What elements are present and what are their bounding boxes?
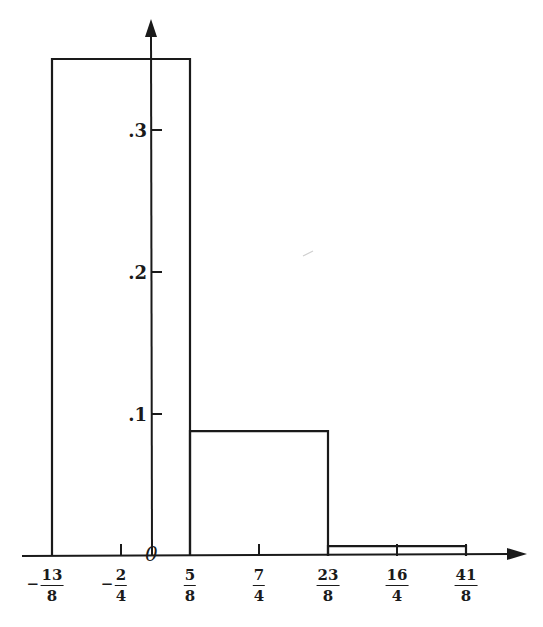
x-tick-label: 418 xyxy=(455,568,478,604)
fraction-denominator: 8 xyxy=(184,586,196,604)
y-tick-label: .3 xyxy=(128,120,147,141)
fraction-numerator: 41 xyxy=(455,568,478,586)
histogram-bar xyxy=(190,431,328,556)
x-tick-label: −138 xyxy=(41,568,64,604)
fraction-denominator: 4 xyxy=(115,586,127,604)
smudge-mark xyxy=(303,251,313,256)
fraction-numerator: 2 xyxy=(115,568,127,586)
origin-label: 0 xyxy=(145,542,158,566)
fraction-numerator: 23 xyxy=(317,568,340,586)
x-axis xyxy=(22,548,527,560)
histogram-chart xyxy=(0,0,543,627)
x-tick-label: 58 xyxy=(184,568,196,604)
histogram-bars xyxy=(52,59,466,556)
x-tick-label: 164 xyxy=(386,568,409,604)
x-tick-label: 74 xyxy=(253,568,265,604)
fraction-denominator: 8 xyxy=(317,586,340,604)
x-tick-label: −24 xyxy=(115,568,127,604)
fraction-denominator: 4 xyxy=(386,586,409,604)
x-axis-arrow-icon xyxy=(507,548,527,560)
x-tick-label: 238 xyxy=(317,568,340,604)
fraction-denominator: 8 xyxy=(41,586,64,604)
y-tick-label: .1 xyxy=(128,404,147,425)
y-ticks xyxy=(152,130,162,414)
fraction-numerator: 13 xyxy=(41,568,64,586)
fraction-numerator: 7 xyxy=(253,568,265,586)
minus-sign: − xyxy=(101,577,114,592)
fraction-numerator: 16 xyxy=(386,568,409,586)
histogram-bar xyxy=(52,59,190,556)
y-axis-arrow-icon xyxy=(145,19,157,37)
minus-sign: − xyxy=(27,577,40,592)
fraction-numerator: 5 xyxy=(184,568,196,586)
fraction-denominator: 4 xyxy=(253,586,265,604)
fraction-denominator: 8 xyxy=(455,586,478,604)
y-tick-label: .2 xyxy=(128,262,147,283)
y-axis xyxy=(145,19,157,556)
